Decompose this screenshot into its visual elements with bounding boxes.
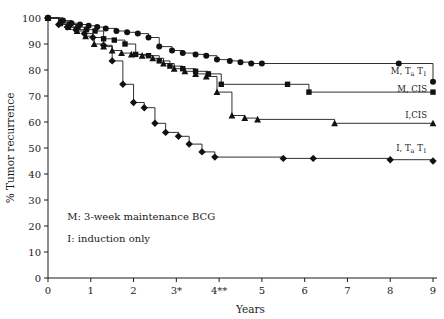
data-point-diamond [108, 57, 115, 64]
data-point-square [167, 63, 172, 68]
data-point-circle [193, 51, 199, 57]
series-label: I, Ta T1 [396, 143, 427, 155]
data-point-diamond [175, 133, 182, 140]
x-tick-label: 8 [387, 285, 393, 296]
data-point-circle [430, 79, 436, 85]
data-point-circle [113, 28, 119, 34]
data-point-circle [227, 58, 233, 64]
data-point-diamond [151, 120, 158, 127]
data-point-square [122, 41, 127, 46]
data-point-diamond [429, 157, 436, 164]
data-point-square [219, 82, 224, 87]
x-tick-label: 7 [344, 285, 350, 296]
x-tick-label: 9 [430, 285, 436, 296]
x-tick-label: 1 [88, 285, 94, 296]
chart-annotation: M: 3-week maintenance BCG [67, 211, 215, 222]
data-point-diamond [310, 155, 317, 162]
y-tick-label: 40 [28, 169, 41, 180]
data-point-diamond [198, 148, 205, 155]
data-point-circle [169, 48, 175, 54]
chart-canvas: 01020304050607080901000123*4**56789Years… [0, 0, 444, 319]
data-point-diamond [89, 34, 96, 41]
data-point-diamond [387, 156, 394, 163]
y-tick-label: 90 [28, 39, 41, 50]
data-point-diamond [162, 129, 169, 136]
data-point-diamond [130, 99, 137, 106]
data-point-square [92, 28, 97, 33]
data-point-diamond [100, 42, 107, 49]
data-point-square [157, 58, 162, 63]
y-tick-label: 70 [28, 91, 41, 102]
data-point-circle [146, 35, 152, 41]
data-point-circle [156, 44, 162, 50]
series-label: M, CIS [397, 84, 427, 94]
series-label: M, Ta T1 [391, 66, 427, 78]
y-tick-label: 10 [28, 247, 41, 258]
data-point-circle [180, 50, 186, 56]
data-point-circle [203, 53, 209, 59]
data-point-square [112, 37, 117, 42]
chart-annotation: I: induction only [67, 233, 150, 244]
y-tick-label: 60 [28, 117, 41, 128]
data-point-diamond [211, 153, 218, 160]
data-point-circle [238, 59, 244, 65]
y-tick-label: 50 [28, 143, 41, 154]
data-point-circle [248, 61, 254, 67]
x-tick-label: 4** [211, 285, 227, 296]
data-point-circle [135, 31, 141, 37]
data-point-diamond [185, 140, 192, 147]
x-tick-label: 0 [45, 285, 51, 296]
data-point-square [430, 89, 435, 94]
data-point-diamond [280, 155, 287, 162]
x-tick-label: 5 [259, 285, 265, 296]
x-tick-label: 6 [301, 285, 307, 296]
data-point-square [285, 82, 290, 87]
series-line [48, 18, 433, 123]
data-point-circle [103, 25, 109, 31]
y-tick-label: 100 [22, 13, 41, 24]
data-point-square [306, 89, 311, 94]
data-point-circle [124, 29, 130, 35]
y-tick-label: 30 [28, 195, 41, 206]
data-point-circle [259, 61, 265, 67]
data-point-diamond [119, 81, 126, 88]
data-point-circle [214, 57, 220, 63]
x-tick-label: 3* [171, 285, 182, 296]
kaplan-meier-chart: 01020304050607080901000123*4**56789Years… [0, 0, 444, 319]
y-tick-label: 80 [28, 65, 41, 76]
x-tick-label: 2 [130, 285, 136, 296]
y-tick-label: 20 [28, 221, 41, 232]
y-axis-title: % Tumor recurrence [4, 93, 16, 204]
data-point-diamond [141, 104, 148, 111]
series-label: I,CIS [405, 110, 427, 120]
x-axis-title: Years [235, 303, 265, 315]
y-tick-label: 0 [35, 273, 41, 284]
